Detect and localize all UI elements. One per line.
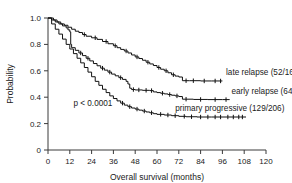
x-tick-label: 108 <box>238 157 252 166</box>
series-early-relapse: early relapse (64/138) <box>48 18 292 102</box>
x-tick-label: 12 <box>65 157 74 166</box>
x-tick-label: 96 <box>218 157 227 166</box>
y-tick-label: 0.2 <box>30 120 42 129</box>
y-tick-label: 0.4 <box>30 93 42 102</box>
y-tick-label: 0.8 <box>30 40 42 49</box>
pvalue-annotation: p < 0.0001 <box>73 99 112 108</box>
x-tick-label: 24 <box>87 157 96 166</box>
survival-plot: 0122436486072849610812000.20.40.60.81.0O… <box>0 0 292 183</box>
series-late-relapse: late relapse (52/169) <box>48 18 292 83</box>
kaplan-meier-chart: 0122436486072849610812000.20.40.60.81.0O… <box>0 0 292 183</box>
x-axis-title: Overall survival (months) <box>110 172 204 182</box>
curve-line <box>48 18 222 81</box>
x-tick-label: 36 <box>109 157 118 166</box>
series-label: early relapse (64/138) <box>231 87 292 96</box>
x-tick-label: 72 <box>174 157 183 166</box>
series-label: primary progressive (129/206) <box>175 104 284 113</box>
x-tick-label: 48 <box>131 157 140 166</box>
y-tick-label: 0.6 <box>30 67 42 76</box>
y-axis-title: Probability <box>5 63 15 103</box>
y-tick-label: 0 <box>37 146 42 155</box>
x-tick-label: 60 <box>153 157 162 166</box>
x-tick-label: 84 <box>196 157 205 166</box>
y-tick-label: 1.0 <box>30 14 42 23</box>
x-tick-label: 120 <box>259 157 273 166</box>
x-tick-label: 0 <box>46 157 51 166</box>
series-label: late relapse (52/169) <box>226 68 292 77</box>
